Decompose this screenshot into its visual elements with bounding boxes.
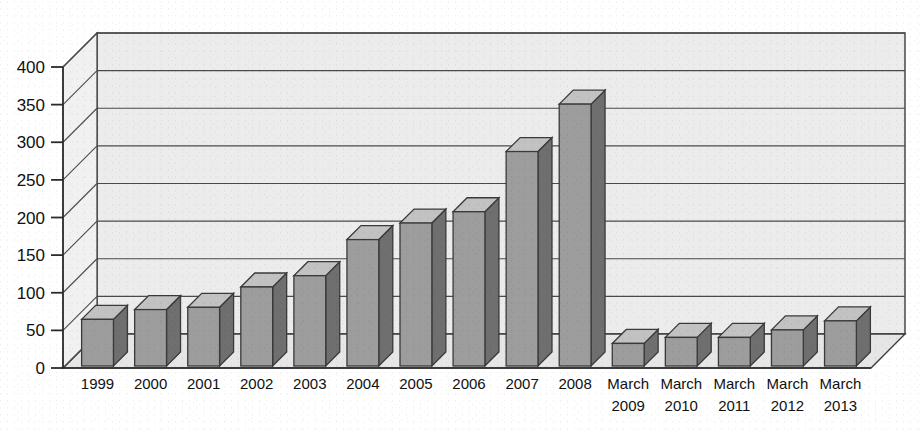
bar-front-face xyxy=(718,337,750,366)
x-axis-tick-label: 2007 xyxy=(505,375,538,392)
x-axis-tick-label: 2004 xyxy=(346,375,379,392)
x-axis-tick-label: March xyxy=(767,375,809,392)
x-axis-tick-label: March xyxy=(660,375,702,392)
x-axis-tick-label: 2005 xyxy=(399,375,432,392)
x-axis-tick-label: 2001 xyxy=(187,375,220,392)
y-axis-tick-label: 50 xyxy=(26,321,45,340)
bar xyxy=(82,305,128,366)
bar-side-face xyxy=(538,138,552,366)
bar-front-face xyxy=(771,330,803,366)
y-axis-tick-label: 300 xyxy=(17,133,45,152)
bar xyxy=(241,273,287,366)
bar xyxy=(825,307,871,366)
bar xyxy=(453,198,499,366)
bar-front-face xyxy=(188,307,220,366)
bar-front-face xyxy=(506,152,538,366)
bar-side-face xyxy=(432,209,446,366)
bar xyxy=(294,262,340,366)
bar-front-face xyxy=(294,276,326,366)
bar-front-face xyxy=(82,319,114,366)
bar xyxy=(347,226,393,366)
y-axis-tick-label: 0 xyxy=(36,359,45,378)
y-axis-tick-label: 350 xyxy=(17,96,45,115)
bar xyxy=(559,90,605,366)
y-axis-tick-label: 200 xyxy=(17,209,45,228)
bar-side-face xyxy=(485,198,499,366)
x-axis-tick-label: 2009 xyxy=(612,397,645,414)
x-axis-tick-label: 2011 xyxy=(718,397,750,414)
bar-front-face xyxy=(665,337,697,366)
y-axis-tick-label: 150 xyxy=(17,246,45,265)
x-axis-tick-label: 2013 xyxy=(824,397,857,414)
x-axis-tick-label: 2010 xyxy=(665,397,698,414)
bar xyxy=(400,209,446,366)
y-axis-tick-label: 250 xyxy=(17,171,45,190)
x-axis-tick-label: March xyxy=(713,375,755,392)
bar-front-face xyxy=(400,223,432,366)
bar xyxy=(665,323,711,366)
bar-chart-figure: 050100150200250300350400 199920002001200… xyxy=(0,0,920,430)
bar-front-face xyxy=(612,343,644,366)
x-axis-labels-group: 1999200020012002200320042005200620072008… xyxy=(81,375,861,414)
x-axis-tick-label: 2002 xyxy=(240,375,273,392)
x-axis-tick-label: 1999 xyxy=(81,375,114,392)
bar-front-face xyxy=(135,310,167,366)
bar xyxy=(506,138,552,366)
bar-front-face xyxy=(453,212,485,366)
bar xyxy=(771,316,817,366)
y-axis-tick-label: 400 xyxy=(17,58,45,77)
x-axis-tick-label: 2012 xyxy=(771,397,804,414)
x-axis-tick-label: March xyxy=(820,375,862,392)
x-axis-tick-label: 2008 xyxy=(558,375,591,392)
bar-front-face xyxy=(347,240,379,366)
bar-front-face xyxy=(825,321,857,366)
page-bleed-text xyxy=(120,0,820,8)
x-axis-tick-label: 2003 xyxy=(293,375,326,392)
y-axis-ticks-group: 050100150200250300350400 xyxy=(17,58,63,378)
bar-side-face xyxy=(326,262,340,366)
bar-side-face xyxy=(591,90,605,366)
x-axis-tick-label: 2000 xyxy=(134,375,167,392)
x-axis-tick-label: 2006 xyxy=(452,375,485,392)
chart-canvas: 050100150200250300350400 199920002001200… xyxy=(0,0,920,430)
bar xyxy=(188,293,234,366)
bar xyxy=(718,323,764,366)
bar-front-face xyxy=(241,287,273,366)
bar-side-face xyxy=(379,226,393,366)
bar xyxy=(135,296,181,366)
y-axis-tick-label: 100 xyxy=(17,284,45,303)
x-axis-tick-label: March xyxy=(607,375,649,392)
bar-side-face xyxy=(273,273,287,366)
bar-front-face xyxy=(559,104,591,366)
